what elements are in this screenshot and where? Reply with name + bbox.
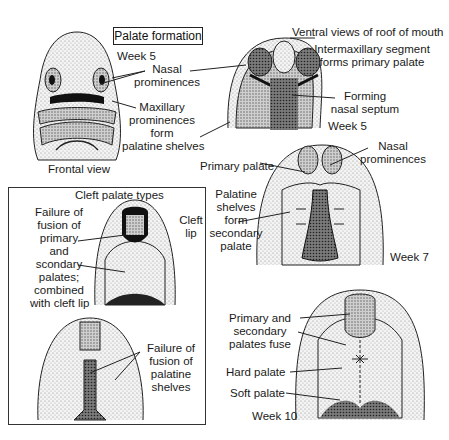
- label-hard-palate: Hard palate: [226, 366, 285, 379]
- frontal-view-embryo: [34, 32, 121, 160]
- label-intermaxillary-segment: Intermaxillary segment forms primary pal…: [312, 43, 432, 69]
- label-maxillary-prominences: Maxillary prominences form palatine shel…: [122, 101, 202, 153]
- frontal-week-label: Week 5: [117, 50, 156, 63]
- week5-ventral-label: Week 5: [328, 120, 367, 133]
- label-palatine-shelves-secondary: Palatine shelves form secondary palate: [208, 188, 264, 253]
- label-cleft-lip: Cleft lip: [178, 214, 204, 240]
- ventral-heading: Ventral views of roof of mouth: [292, 26, 444, 39]
- label-soft-palate: Soft palate: [230, 387, 285, 400]
- ventral-week10-illustration: [296, 290, 425, 420]
- label-nasal-prominences-week7: Nasal prominences: [358, 140, 428, 166]
- label-cleft-type1: Failure of fusion of primary and scondar…: [30, 206, 88, 310]
- frontal-view-caption: Frontal view: [48, 163, 110, 176]
- label-nasal-prominences-frontal: Nasal prominences: [134, 63, 200, 89]
- label-primary-palate: Primary palate: [200, 160, 274, 173]
- week10-label: Week 10: [252, 410, 297, 423]
- cleft-heading: Cleft palate types: [75, 189, 164, 202]
- label-palates-fuse: Primary and secondary palates fuse: [226, 312, 294, 351]
- week7-label: Week 7: [390, 251, 429, 264]
- diagram-title: Palate formation: [113, 27, 203, 45]
- label-cleft-type2: Failure of fusion of palatine shelves: [140, 342, 202, 394]
- label-forming-nasal-septum: Forming nasal septum: [330, 90, 400, 116]
